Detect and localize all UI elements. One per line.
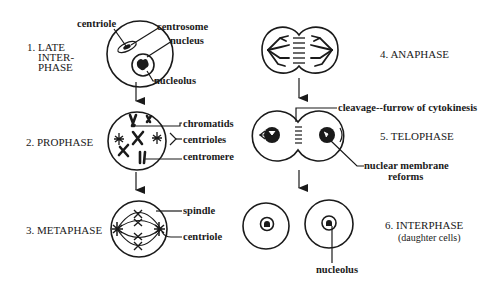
stage-1-late-interphase: 1. LATE INTER- PHASE centriole centrosom… — [27, 18, 208, 87]
stage-5-label: 5. TELOPHASE — [380, 130, 454, 142]
spindle-midzone — [293, 38, 305, 63]
label-centromere: centromere — [183, 151, 234, 162]
label-centriole: centriole — [77, 18, 116, 29]
label-nucleus: nucleus — [170, 35, 204, 46]
stage-2-label: 2. PROPHASE — [26, 136, 94, 148]
left-nucleolus — [264, 221, 270, 227]
stage-3-label: 3. METAPHASE — [26, 224, 102, 236]
nucleolus-shape — [137, 59, 149, 70]
stage-1-label-line3: PHASE — [38, 61, 73, 73]
stage-4-anaphase: 4. ANAPHASE — [262, 27, 449, 73]
cleavage-furrow-marks — [295, 127, 302, 143]
label-reforms: reforms — [388, 171, 423, 182]
separating-chromatids — [268, 36, 332, 66]
label-spindle: spindle — [183, 205, 215, 216]
stage-2-prophase: 2. PROPHASE chromatids centrioles centro… — [26, 112, 234, 170]
stage-4-label: 4. ANAPHASE — [380, 48, 449, 60]
label-centrioles: centrioles — [183, 134, 226, 145]
cell-membrane — [262, 27, 338, 73]
mitosis-diagram: 1. LATE INTER- PHASE centriole centrosom… — [0, 0, 497, 288]
label-cleavage-furrow: cleavage--furrow of cytokinesis — [338, 102, 477, 113]
stage-3-metaphase: 3. METAPHASE spindle centriole — [26, 201, 222, 257]
stage-5-telophase: cleavage--furrow of cytokinesis nuclear … — [252, 102, 477, 182]
stage-6-interphase: nucleolus 6. INTERPHASE (daughter cells) — [243, 200, 464, 275]
label-centrosome: centrosome — [157, 21, 208, 32]
label-nucleolus: nucleolus — [316, 264, 358, 275]
label-centriole: centriole — [183, 231, 222, 242]
stage-6-label-line2: (daughter cells) — [398, 232, 460, 244]
right-nucleolus — [326, 220, 332, 226]
label-nuclear-membrane: nuclear membrane — [364, 160, 449, 171]
label-chromatids: chromatids — [183, 118, 234, 129]
equatorial-chromosomes — [134, 210, 142, 250]
label-nucleolus: nucleolus — [154, 75, 196, 86]
stage-6-label-line1: 6. INTERPHASE — [385, 219, 464, 231]
